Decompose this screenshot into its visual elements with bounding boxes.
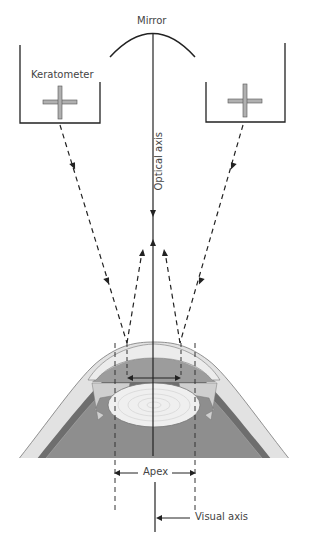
incident-ray-right [180, 125, 243, 343]
crosshair-right-icon [228, 84, 262, 117]
incident-ray-left [60, 125, 127, 343]
keratometer-label: Keratometer [31, 69, 94, 80]
keratometer-diagram [0, 0, 309, 543]
reflected-ray-right [165, 252, 180, 343]
crosshair-left-icon [43, 86, 77, 119]
eye-cross-section [10, 342, 298, 470]
visual-axis-label: Visual axis [195, 511, 248, 522]
lens [108, 383, 200, 427]
optical-axis-label: Optical axis [153, 131, 164, 191]
reflected-ray-left [127, 252, 142, 343]
apex-label: Apex [143, 466, 168, 477]
mirror-label: Mirror [137, 15, 166, 26]
